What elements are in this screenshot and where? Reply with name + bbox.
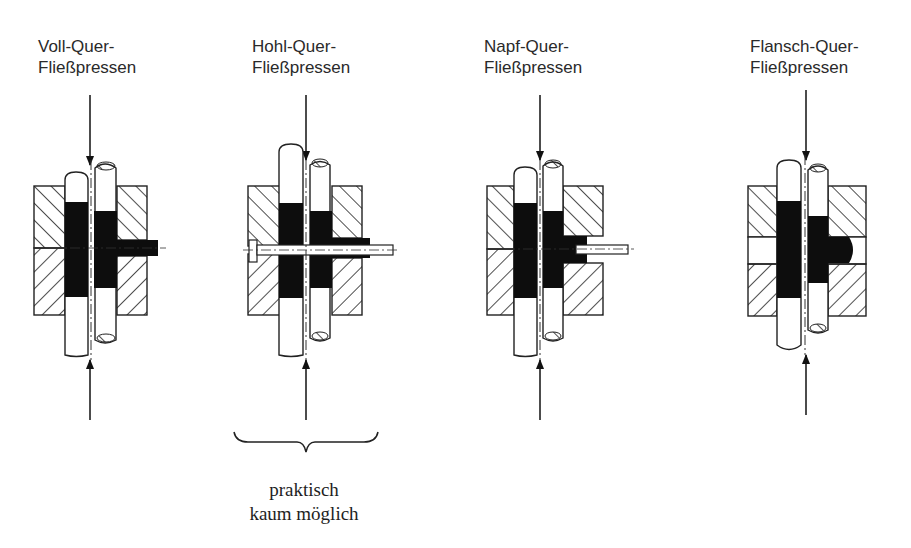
diagram-napf xyxy=(487,95,634,420)
diagram-flansch xyxy=(748,90,866,415)
diagram-hohl xyxy=(234,95,400,452)
diagram-voll xyxy=(34,95,166,420)
counter-pin xyxy=(576,245,628,254)
brace xyxy=(234,432,378,452)
process-diagrams xyxy=(0,0,911,548)
